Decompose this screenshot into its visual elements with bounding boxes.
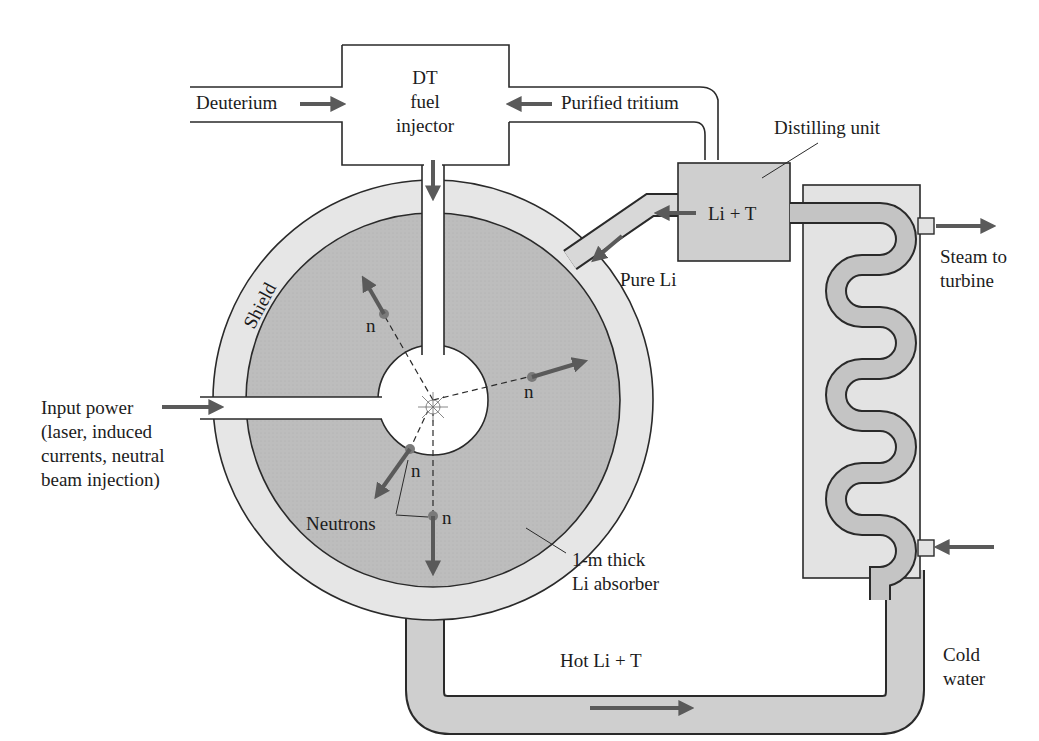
steam-label-1: Steam to (940, 246, 1007, 267)
neutron-symbol: n (366, 315, 376, 336)
distilling-unit-label: Distilling unit (774, 117, 881, 138)
cold-water-label-1: Cold (943, 644, 980, 665)
cold-water-inlet (918, 540, 934, 556)
injector-label-2: fuel (410, 91, 440, 112)
input-power-channel (205, 397, 385, 419)
fusion-reactor-diagram: Deuterium DT fuel injector Purified trit… (0, 0, 1039, 741)
pure-li-label: Pure Li (620, 269, 676, 290)
hot-li-t-label: Hot Li + T (560, 650, 642, 671)
absorber-label-1: 1-m thick (572, 549, 646, 570)
absorber-label-2: Li absorber (572, 573, 660, 594)
deuterium-label: Deuterium (196, 92, 277, 113)
cold-water-label-2: water (943, 668, 986, 689)
plasma-burst-icon (418, 392, 448, 422)
neutrons-label: Neutrons (306, 513, 376, 534)
injector-label-1: DT (412, 67, 438, 88)
steam-label-2: turbine (940, 270, 994, 291)
input-power-label-4: beam injection) (41, 469, 160, 491)
neutron-symbol: n (411, 460, 421, 481)
neutron-symbol: n (442, 507, 452, 528)
neutron-symbol: n (524, 381, 534, 402)
input-power-label-2: (laser, induced (41, 421, 153, 443)
steam-outlet (918, 218, 934, 234)
purified-tritium-label: Purified tritium (561, 92, 679, 113)
input-power-label-1: Input power (41, 397, 134, 418)
li-t-label: Li + T (708, 203, 757, 224)
input-power-label-3: currents, neutral (41, 445, 164, 466)
injector-label-3: injector (396, 115, 455, 136)
